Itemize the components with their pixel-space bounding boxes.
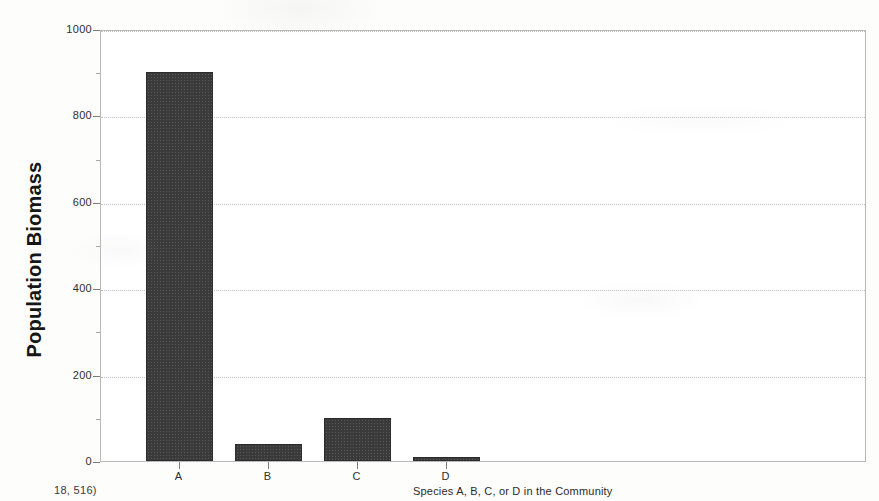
gridline [101, 204, 865, 205]
y-axis-tick-minor [96, 419, 100, 420]
x-axis-tick [268, 462, 269, 469]
bar-c [324, 418, 391, 461]
plot-area [100, 30, 866, 462]
x-axis-tick-label-c: C [337, 470, 377, 482]
gridline [101, 117, 865, 118]
bar-d [413, 457, 480, 461]
bar-b [235, 444, 302, 461]
y-axis-tick-minor [96, 73, 100, 74]
y-axis-tick-label: 400 [32, 282, 92, 294]
y-axis-tick-label: 600 [32, 196, 92, 208]
x-axis-tick-label-b: B [248, 470, 288, 482]
y-axis-tick-minor [96, 160, 100, 161]
x-axis-tick [446, 462, 447, 469]
y-axis-tick-label: 0 [32, 455, 92, 467]
y-axis-tick-minor [96, 332, 100, 333]
gridline [101, 290, 865, 291]
x-axis-tick-label-a: A [159, 470, 199, 482]
gridline [101, 31, 865, 32]
y-axis-tick-label: 1000 [32, 23, 92, 35]
x-axis-tick [357, 462, 358, 469]
y-axis-tick-major [93, 116, 100, 117]
x-axis-tick [179, 462, 180, 469]
gridline [101, 377, 865, 378]
chart-figure: Population Biomass 02004006008001000 ABC… [0, 0, 879, 501]
bar-a [146, 72, 213, 461]
page-fragment-text: 18, 516) [54, 484, 97, 496]
y-axis-tick-label: 200 [32, 369, 92, 381]
y-axis-tick-minor [96, 246, 100, 247]
y-axis-title: Population Biomass [23, 130, 46, 390]
y-axis-tick-major [93, 30, 100, 31]
y-axis-tick-major [93, 462, 100, 463]
y-axis-tick-major [93, 203, 100, 204]
y-axis-tick-major [93, 376, 100, 377]
y-axis-tick-major [93, 289, 100, 290]
x-axis-tick-label-d: D [426, 470, 466, 482]
x-axis-title: Species A, B, C, or D in the Community [413, 485, 613, 497]
y-axis-tick-label: 800 [32, 109, 92, 121]
